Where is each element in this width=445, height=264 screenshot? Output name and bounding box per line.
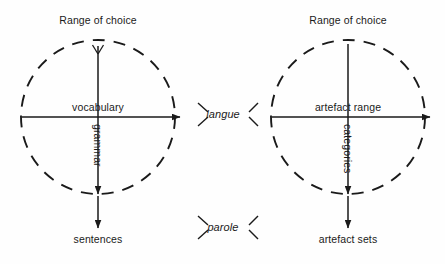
output-label-artefact-sets: artefact sets — [319, 233, 378, 245]
vertical-label-categories: categories — [342, 124, 354, 173]
heading-artefact: Range of choice — [309, 14, 386, 26]
center-label-langue: langue — [206, 108, 240, 120]
output-label-sentences: sentences — [74, 233, 123, 245]
vertical-label-grammar: grammar — [92, 124, 104, 167]
heading-language: Range of choice — [59, 14, 136, 26]
figure-canvas: Range of choice vocabulary grammar sente… — [0, 0, 445, 264]
horizontal-label-vocabulary: vocabulary — [72, 101, 124, 113]
horizontal-label-artefact-range: artefact range — [315, 101, 381, 113]
center-label-parole: parole — [207, 221, 238, 233]
